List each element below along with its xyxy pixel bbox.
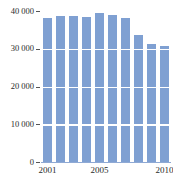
- y-axis-tick-label: 10 000: [0, 120, 40, 129]
- y-axis-tick-mark: [36, 87, 40, 88]
- y-axis-tick-mark: [36, 49, 40, 50]
- x-axis-tick-labels: 200120052010: [41, 164, 171, 184]
- gridline: [41, 49, 171, 51]
- gridline: [41, 124, 171, 126]
- plot-area: [41, 11, 171, 162]
- x-axis-tick-label: 2005: [91, 166, 109, 175]
- bar-chart: 010 00020 00030 00040 000 200120052010: [0, 0, 173, 188]
- bar[interactable]: [134, 35, 143, 162]
- y-axis-tick-label: 40 000: [0, 7, 40, 16]
- bar[interactable]: [147, 44, 156, 162]
- gridline: [41, 11, 171, 13]
- y-axis-tick-label: 30 000: [0, 44, 40, 53]
- y-axis-tick-mark: [36, 162, 40, 163]
- bar[interactable]: [82, 17, 91, 162]
- y-axis-tick-label: 20 000: [0, 82, 40, 91]
- bar[interactable]: [121, 18, 130, 162]
- y-axis-tick-mark: [36, 124, 40, 125]
- y-axis-tick-labels: 010 00020 00030 00040 000: [0, 0, 40, 188]
- y-axis-tick-label: 0: [0, 158, 40, 167]
- x-axis-tick-label: 2001: [39, 166, 57, 175]
- y-axis-tick-mark: [36, 11, 40, 12]
- gridline: [41, 87, 171, 89]
- bar[interactable]: [43, 18, 52, 162]
- x-axis-tick-label: 2010: [156, 166, 174, 175]
- bar[interactable]: [56, 16, 65, 162]
- bar[interactable]: [160, 46, 169, 162]
- bar[interactable]: [108, 15, 117, 162]
- x-axis-line: [41, 162, 171, 163]
- bar[interactable]: [69, 16, 78, 162]
